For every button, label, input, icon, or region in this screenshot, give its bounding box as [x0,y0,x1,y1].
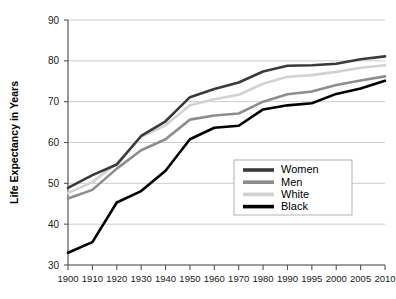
y-tick-label-30: 30 [48,260,60,271]
chart-legend: WomenMenWhiteBlack [234,160,352,215]
life-expectancy-chart: 90807060504030 1900191019201930194019501… [0,0,396,299]
x-tick-label-1980: 1980 [253,273,274,284]
x-tick-label-2005: 2005 [350,273,371,284]
gridlines [68,20,385,265]
x-tick-label-1970: 1970 [228,273,249,284]
data-series [68,56,385,252]
y-tick-label-80: 80 [48,55,60,66]
x-tick-label-1930: 1930 [131,273,152,284]
legend-label-men: Men [281,176,302,188]
y-tick-label-60: 60 [48,137,60,148]
x-tick-label-1995: 1995 [301,273,322,284]
y-tick-label-40: 40 [48,219,60,230]
x-tick-label-2000: 2000 [326,273,347,284]
x-axis-tick-labels: 1900191019201930194019501960197019801990… [57,273,395,284]
chart-svg: 90807060504030 1900191019201930194019501… [0,0,396,299]
x-tick-label-1920: 1920 [106,273,127,284]
legend-label-white: White [281,188,309,200]
x-axis [68,265,385,270]
x-tick-label-2010: 2010 [374,273,395,284]
y-tick-label-50: 50 [48,178,60,189]
x-tick-label-1940: 1940 [155,273,176,284]
y-tick-label-70: 70 [48,96,60,107]
x-tick-label-1960: 1960 [204,273,225,284]
x-tick-label-1990: 1990 [277,273,298,284]
legend-label-women: Women [281,163,319,175]
y-tick-label-90: 90 [48,15,60,26]
legend-label-black: Black [281,200,308,212]
y-axis-tick-labels: 90807060504030 [48,15,68,271]
y-axis-title-text: Life Expectancy in Years [8,81,20,204]
x-tick-label-1910: 1910 [82,273,103,284]
y-axis-title: Life Expectancy in Years [8,81,20,204]
x-tick-label-1950: 1950 [179,273,200,284]
x-tick-label-1900: 1900 [57,273,78,284]
